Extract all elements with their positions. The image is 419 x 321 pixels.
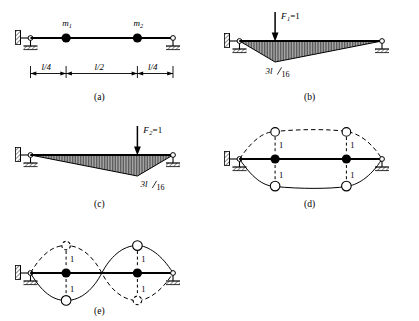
dim-right-label: l/4: [148, 62, 158, 72]
node-d-2-down: [342, 181, 352, 191]
dim-left-label: l/4: [41, 62, 51, 72]
amp-d-1-up-label: 1: [279, 140, 283, 150]
load-F2-symbol: F: [142, 125, 149, 135]
wall-hatch-b: [225, 34, 230, 48]
figure-canvas: m 1 m 2 l/4 l/2 l/4 (a): [0, 0, 419, 321]
mass-d-2: [342, 154, 351, 163]
amp-e-2-down-label: 1: [141, 284, 145, 294]
panel-label-e: (e): [94, 306, 105, 317]
panel-label-b: (b): [304, 92, 315, 103]
load-label-c: F 2 =1: [142, 125, 162, 136]
panel-label-a: (a): [94, 92, 105, 103]
node-d-2-up: [342, 128, 351, 137]
amp-e-1-up-label: 1: [70, 254, 74, 264]
node-e-1-up: [62, 241, 71, 250]
mass-1-subscript: 1: [69, 22, 72, 29]
amp-d-1-down-label: 1: [279, 170, 283, 180]
peak-b-denominator: 16: [281, 70, 289, 79]
node-e-2-down: [133, 296, 142, 305]
wall-hatch-a: [16, 31, 21, 45]
wall-hatch-c: [16, 148, 21, 162]
amp-e-2-up-label: 1: [141, 254, 145, 264]
mass-1-dot: [62, 33, 71, 42]
node-d-1-up: [271, 128, 280, 137]
load-label-b: F 1 =1: [280, 11, 300, 22]
mass-e-2: [133, 268, 142, 277]
engineering-figure: m 1 m 2 l/4 l/2 l/4 (a): [0, 0, 419, 321]
wall-hatch-d: [225, 152, 230, 166]
amp-d-2-up-label: 1: [350, 140, 354, 150]
wall-hatch-e: [16, 266, 21, 280]
amp-d-2-down-label: 1: [350, 170, 354, 180]
amp-e-1-down-label: 1: [70, 284, 74, 294]
load-F2-value: =1: [153, 125, 163, 135]
node-d-1-down: [270, 181, 280, 191]
peak-c-numerator: 3l: [140, 179, 149, 189]
node-e-1-down: [61, 296, 71, 306]
peak-b-numerator: 3l: [265, 66, 274, 76]
dim-middle-label: l/2: [95, 62, 105, 72]
panel-label-d: (d): [304, 199, 315, 210]
peak-c-denominator: 16: [156, 183, 164, 192]
panel-label-c: (c): [94, 199, 105, 210]
mass-2-dot: [133, 33, 142, 42]
load-F1-value: =1: [290, 11, 300, 21]
load-F1-symbol: F: [280, 11, 287, 21]
node-e-2-up: [133, 241, 143, 251]
mass-d-1: [271, 154, 280, 163]
mass-e-1: [62, 268, 71, 277]
